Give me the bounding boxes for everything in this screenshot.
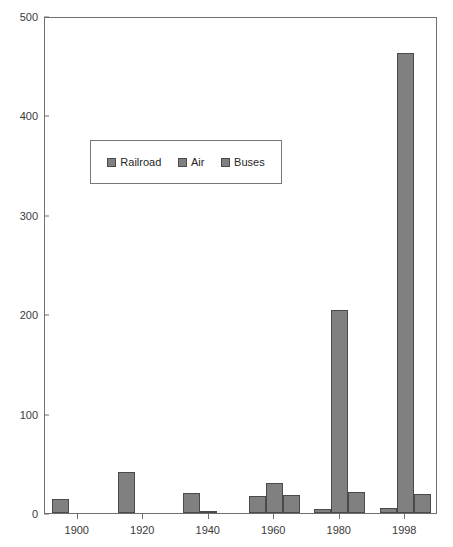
chart-legend: RailroadAirBuses	[90, 140, 282, 184]
y-axis-tick-mark	[44, 414, 49, 415]
bar-railroad-1998	[380, 508, 397, 513]
x-axis-tick-mark	[273, 514, 274, 519]
x-axis-tick-label: 1900	[65, 524, 89, 536]
bar-air-1998	[397, 53, 414, 513]
legend-swatch-icon	[178, 158, 187, 167]
bar-railroad-1960	[249, 496, 266, 513]
x-axis-tick-mark	[404, 514, 405, 519]
legend-item-label: Buses	[234, 156, 265, 168]
bar-buses-1980	[348, 492, 365, 513]
bar-railroad-1920	[118, 472, 135, 513]
bar-buses-1998	[414, 494, 431, 513]
bar-railroad-1940	[183, 493, 200, 513]
y-axis-tick-mark	[44, 315, 49, 316]
y-axis-tick-mark	[44, 514, 49, 515]
bar-air-1940	[200, 511, 217, 513]
legend-item-railroad: Railroad	[107, 156, 161, 168]
y-axis-tick-label: 200	[20, 309, 38, 321]
y-axis-tick-label: 100	[20, 409, 38, 421]
y-axis-tick-label: 0	[32, 508, 38, 520]
bar-air-1960	[266, 483, 283, 513]
y-axis-tick-mark	[44, 215, 49, 216]
x-axis-tick-mark	[208, 514, 209, 519]
legend-item-label: Railroad	[120, 156, 161, 168]
x-axis-tick-label: 1998	[392, 524, 416, 536]
x-axis-tick-mark	[339, 514, 340, 519]
bar-buses-1960	[283, 495, 300, 513]
legend-swatch-icon	[107, 158, 116, 167]
y-axis: 0100200300400500	[0, 17, 38, 514]
bar-railroad-1980	[314, 509, 331, 513]
y-axis-tick-label: 300	[20, 210, 38, 222]
x-axis-tick-label: 1920	[130, 524, 154, 536]
y-axis-tick-label: 500	[20, 11, 38, 23]
legend-item-label: Air	[191, 156, 204, 168]
x-axis-tick-mark	[142, 514, 143, 519]
x-axis-tick-label: 1940	[196, 524, 220, 536]
bars-container	[45, 18, 436, 513]
legend-row: RailroadAirBuses	[91, 156, 281, 168]
legend-item-buses: Buses	[221, 156, 265, 168]
y-axis-tick-label: 400	[20, 110, 38, 122]
bar-chart: 0100200300400500 RailroadAirBuses 190019…	[0, 0, 453, 547]
legend-swatch-icon	[221, 158, 230, 167]
x-axis-tick-label: 1980	[327, 524, 351, 536]
y-axis-tick-mark	[44, 116, 49, 117]
plot-area	[44, 17, 437, 514]
bar-air-1980	[331, 310, 348, 513]
x-axis-tick-label: 1960	[261, 524, 285, 536]
x-axis-tick-mark	[77, 514, 78, 519]
y-axis-tick-mark	[44, 17, 49, 18]
bar-railroad-1900	[52, 499, 69, 513]
chart-title	[0, 0, 453, 4]
legend-item-air: Air	[178, 156, 204, 168]
